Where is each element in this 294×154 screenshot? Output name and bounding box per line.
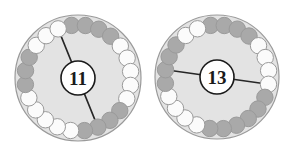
diagram-layer: 1113 <box>15 15 279 141</box>
figure-root: 1113 <box>0 0 294 154</box>
circle-diagram-13: 13 <box>155 15 279 139</box>
circle-diagram-11: 11 <box>15 15 141 141</box>
center-label-value: 13 <box>208 67 227 88</box>
bead-ring-diagram-canvas: 1113 <box>0 0 294 154</box>
center-label-value: 11 <box>69 68 87 89</box>
bead-white-23[interactable] <box>50 21 66 37</box>
bead-white-23[interactable] <box>189 21 205 37</box>
